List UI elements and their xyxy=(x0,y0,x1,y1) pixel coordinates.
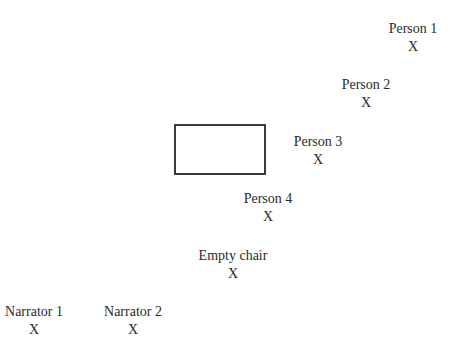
x-marker-icon: X xyxy=(389,38,438,56)
position-label: Narrator 2 xyxy=(104,304,162,319)
position-label: Person 3 xyxy=(294,134,343,149)
position-label: Narrator 1 xyxy=(5,304,63,319)
position-person-4: Person 4 X xyxy=(244,190,293,226)
position-label: Person 2 xyxy=(342,77,391,92)
position-person-2: Person 2 X xyxy=(342,76,391,112)
x-marker-icon: X xyxy=(294,151,343,169)
position-label: Person 4 xyxy=(244,191,293,206)
position-person-1: Person 1 X xyxy=(389,20,438,56)
position-label: Person 1 xyxy=(389,21,438,36)
position-person-3: Person 3 X xyxy=(294,133,343,169)
position-narrator-1: Narrator 1 X xyxy=(5,303,63,339)
position-label: Empty chair xyxy=(199,248,268,263)
x-marker-icon: X xyxy=(104,321,162,339)
x-marker-icon: X xyxy=(199,265,268,283)
x-marker-icon: X xyxy=(342,94,391,112)
position-empty-chair: Empty chair X xyxy=(199,247,268,283)
table-rectangle xyxy=(174,124,266,175)
x-marker-icon: X xyxy=(244,208,293,226)
x-marker-icon: X xyxy=(5,321,63,339)
position-narrator-2: Narrator 2 X xyxy=(104,303,162,339)
